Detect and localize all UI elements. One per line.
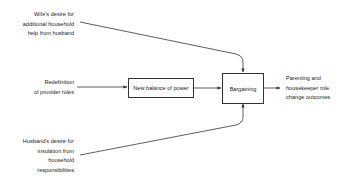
label-line: Redefinition (10, 78, 74, 88)
label-line: household (10, 156, 74, 166)
outcome-label: Parenting and housekeeper role change ou… (286, 74, 330, 103)
label-line: additional household (10, 20, 74, 30)
arrow-wife-to-bargaining (80, 22, 243, 72)
label-line: Husband's desire for (10, 137, 74, 147)
wife-desire-label: Wife's desire for additional household h… (10, 10, 74, 39)
label-line: of provider roles (10, 88, 74, 98)
husband-desire-label: Husband's desire for insulation from hou… (10, 137, 74, 175)
provider-roles-label: Redefinition of provider roles (10, 78, 74, 97)
label-line: change outcomes (286, 93, 330, 103)
bargaining-box: Bargaining (222, 73, 264, 104)
arrow-husband-to-bargaining (80, 104, 243, 155)
label-line: help from husband (10, 29, 74, 39)
label-line: responsibilities (10, 166, 74, 176)
label-line: Wife's desire for (10, 10, 74, 20)
label-line: housekeeper role (286, 84, 330, 94)
label-line: insulation from (10, 147, 74, 157)
label-line: Parenting and (286, 74, 330, 84)
new-balance-of-power-box: New balance of power (128, 78, 194, 98)
